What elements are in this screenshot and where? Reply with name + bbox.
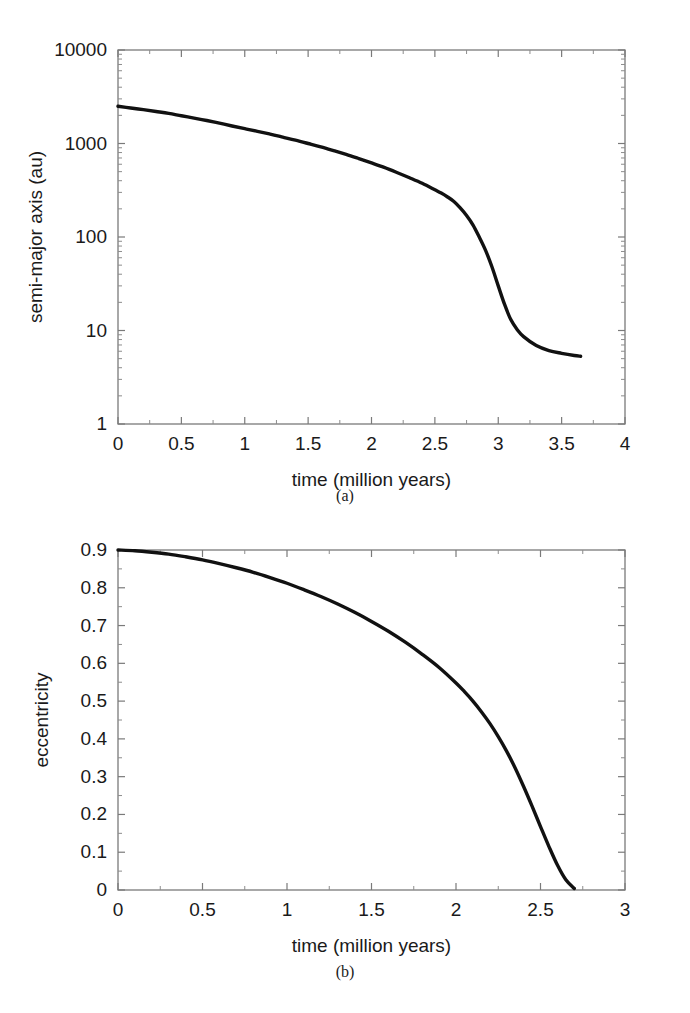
x-tick-label: 3 [620, 899, 631, 920]
y-tick-label: 0.5 [81, 690, 107, 711]
y-tick-label: 0.8 [81, 577, 107, 598]
panel-b-caption: (b) [0, 963, 690, 981]
panel-a-caption: (a) [0, 487, 690, 505]
y-tick-label: 100 [75, 226, 107, 247]
y-tick-label: 0.7 [81, 615, 107, 636]
y-tick-label: 1000 [65, 133, 107, 154]
chart-a-canvas: 00.511.522.533.54110100100010000time (mi… [0, 0, 690, 490]
x-tick-label: 1.5 [295, 433, 321, 454]
y-tick-label: 0.3 [81, 766, 107, 787]
y-tick-label: 0.1 [81, 841, 107, 862]
x-tick-label: 0 [113, 433, 124, 454]
y-tick-label: 0.4 [81, 728, 108, 749]
x-tick-label: 3.5 [548, 433, 574, 454]
x-tick-label: 1 [239, 433, 250, 454]
y-axis-label: eccentricity [31, 672, 52, 768]
x-tick-label: 1.5 [358, 899, 384, 920]
data-curve [118, 550, 574, 888]
x-tick-label: 0.5 [189, 899, 215, 920]
chart-b-canvas: 00.511.522.5300.10.20.30.40.50.60.70.80.… [0, 510, 690, 970]
y-tick-label: 0.9 [81, 539, 107, 560]
panel-a-semi-major-axis: 00.511.522.533.54110100100010000time (mi… [0, 0, 690, 510]
y-tick-label: 0.6 [81, 652, 107, 673]
x-tick-label: 2 [366, 433, 377, 454]
y-tick-label: 0.2 [81, 803, 107, 824]
y-tick-label: 0 [96, 879, 107, 900]
x-tick-label: 2 [451, 899, 462, 920]
x-tick-label: 3 [493, 433, 504, 454]
y-axis-label: semi-major axis (au) [25, 151, 46, 323]
x-tick-label: 4 [620, 433, 631, 454]
x-tick-label: 2.5 [422, 433, 448, 454]
x-tick-label: 0.5 [168, 433, 194, 454]
x-axis-label: time (million years) [292, 935, 451, 956]
x-tick-label: 1 [282, 899, 293, 920]
x-tick-label: 2.5 [527, 899, 553, 920]
y-tick-label: 10 [86, 320, 107, 341]
y-tick-label: 10000 [54, 39, 107, 60]
x-tick-label: 0 [113, 899, 124, 920]
data-curve [118, 106, 581, 356]
y-tick-label: 1 [96, 413, 107, 434]
panel-b-eccentricity: 00.511.522.5300.10.20.30.40.50.60.70.80.… [0, 510, 690, 1013]
